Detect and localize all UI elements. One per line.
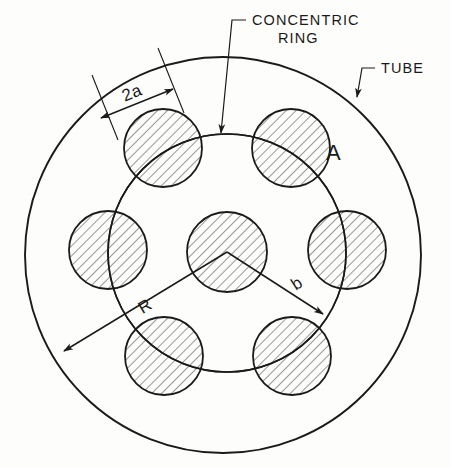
rod-circle bbox=[124, 109, 202, 187]
callout-label-tube: TUBE bbox=[381, 60, 424, 76]
extension-line-2a-left bbox=[92, 75, 118, 140]
rod-circle bbox=[252, 109, 330, 187]
tube-cross-section-diagram: R b 2a CONCENTRIC RING TUBE A bbox=[0, 0, 451, 468]
rod-circle bbox=[125, 317, 203, 395]
extension-line-2a-right bbox=[158, 48, 184, 113]
callout-leader-concentric-ring bbox=[221, 20, 246, 133]
callout-label-concentric-ring-line1: CONCENTRIC bbox=[252, 12, 360, 28]
callout-label-concentric-ring-line2: RING bbox=[278, 30, 319, 46]
dimension-label-b: b bbox=[288, 273, 307, 294]
dimension-label-R: R bbox=[135, 295, 156, 318]
rod-circle bbox=[308, 211, 386, 289]
diagram-canvas: R b 2a CONCENTRIC RING TUBE A bbox=[0, 0, 451, 468]
callout-leader-tube bbox=[357, 68, 375, 97]
annotation-label-A: A bbox=[326, 140, 342, 165]
